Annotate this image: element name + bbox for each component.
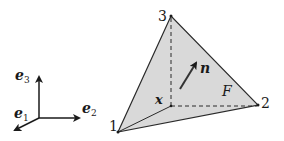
origin-x-label: x [154,92,163,107]
axis-e1-label: e1 [14,105,29,123]
normal-n-label: n [200,60,210,76]
vertex-2-dot [257,104,260,107]
vertex-3-label: 3 [158,8,167,24]
axis-e3-label: e3 [15,67,30,85]
vertex-2-label: 2 [261,95,270,111]
face-f-label: F [221,83,233,99]
vertex-3-dot [170,15,173,18]
vertex-x-dot [170,105,173,108]
face-f [118,16,258,132]
axis-e2-label: e2 [82,100,97,118]
tetrahedron-diagram: 3 2 1 x n F e3 e2 e1 [0,0,284,141]
vertex-1-label: 1 [109,118,118,134]
